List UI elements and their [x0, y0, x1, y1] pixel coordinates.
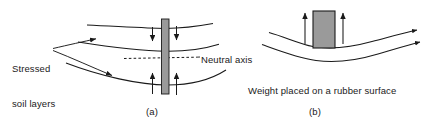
soil-layer-top-curve — [87, 23, 213, 28]
stressed-soil-layers-line1: Stressed — [12, 63, 55, 75]
label-weight-placed-on-rubber-surface: Weight placed on a rubber surface — [248, 85, 396, 97]
leader-arrow-lower — [53, 51, 112, 76]
label-stressed-soil-layers: Stressed soil layers — [12, 40, 55, 131]
rubber-surface-lower-curve — [262, 42, 420, 61]
weight-block — [313, 11, 335, 48]
vertical-pile-column — [162, 19, 170, 94]
figure-drawing — [0, 0, 442, 131]
label-neutral-axis: Neutral axis — [201, 54, 252, 66]
caption-panel-a: (a) — [146, 106, 158, 118]
figure-root: Stressed soil layers Neutral axis Weight… — [0, 0, 442, 131]
neutral-axis-dashed-line — [124, 57, 196, 58]
stressed-soil-layers-line2: soil layers — [12, 98, 55, 110]
soil-layer-middle-curve — [78, 42, 219, 51]
panel-b-group — [262, 11, 420, 61]
caption-panel-b: (b) — [309, 106, 321, 118]
